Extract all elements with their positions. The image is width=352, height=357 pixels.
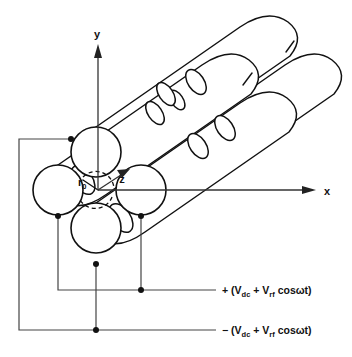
negative-supply-label: − (Vdc + Vrf cosωt) <box>222 324 312 339</box>
positive-supply-label: + (Vdc + Vrf cosωt) <box>222 284 312 299</box>
positive-plus: + V <box>250 284 269 296</box>
dot-rod-left <box>55 213 61 219</box>
z-axis-label: z <box>119 173 125 185</box>
x-axis-label: x <box>324 185 331 197</box>
rod-bottom-section <box>71 203 121 253</box>
rod-top-section <box>71 127 121 177</box>
negative-plus: + V <box>250 324 269 336</box>
x-axis-arrowhead <box>302 186 316 194</box>
positive-sub-dc: dc <box>242 290 251 299</box>
dot-rod-bottom <box>93 261 99 267</box>
quadrupole-diagram: y x z r0 + (Vdc + Vrf cosωt) − (Vdc + Vr… <box>0 0 352 357</box>
positive-cos-term: cosωt) <box>275 284 312 296</box>
dot-rod-right <box>138 213 144 219</box>
dot-positive-rail <box>138 287 144 293</box>
quadrupole-figure: y x z r0 + (Vdc + Vrf cosωt) − (Vdc + Vr… <box>0 0 352 357</box>
negative-open-paren: (V <box>231 324 242 336</box>
positive-open-paren: (V <box>231 284 242 296</box>
y-axis-label: y <box>94 28 101 40</box>
rod-left-section <box>33 165 83 215</box>
y-axis-arrowhead <box>94 44 102 58</box>
dot-negative-rail <box>93 327 99 333</box>
negative-sub-dc: dc <box>242 330 251 339</box>
r0-subscript: 0 <box>82 182 86 191</box>
dot-rod-top <box>68 136 74 142</box>
negative-cos-term: cosωt) <box>275 324 312 336</box>
